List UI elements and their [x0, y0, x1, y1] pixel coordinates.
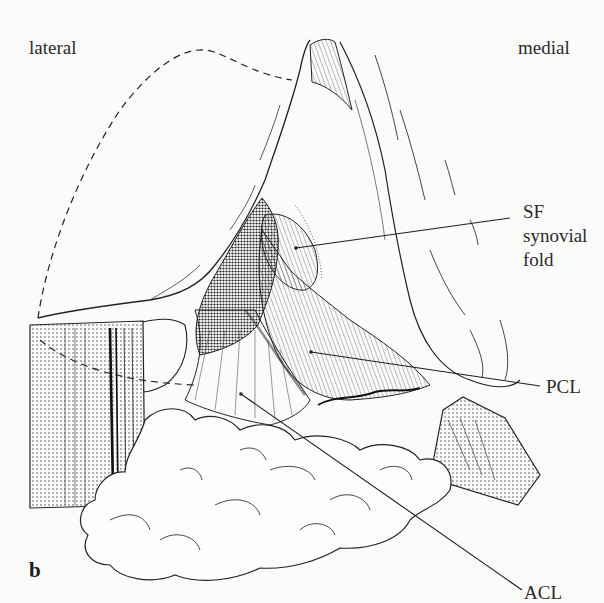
- lateral-label: lateral: [29, 38, 76, 57]
- lateral-tibial-plateau: [143, 319, 187, 392]
- sf-line1: synovial: [523, 224, 587, 248]
- sf-label: SF synovial fold: [523, 200, 587, 272]
- sf-leader-dot: [294, 246, 298, 250]
- acl-label: ACL: [524, 583, 562, 602]
- anatomical-figure: lateral medial SF synovial fold PCL ACL …: [0, 0, 604, 603]
- sf-line2: fold: [523, 248, 587, 272]
- pcl-leader-dot: [309, 350, 313, 354]
- medial-label: medial: [518, 38, 570, 57]
- notch-roof: [310, 39, 352, 110]
- panel-letter: b: [29, 560, 41, 581]
- acl-leader-dot: [239, 392, 243, 396]
- pcl-label: PCL: [546, 377, 581, 396]
- knee-arthroscopy-drawing: [0, 0, 604, 603]
- sf-abbr: SF: [523, 200, 587, 224]
